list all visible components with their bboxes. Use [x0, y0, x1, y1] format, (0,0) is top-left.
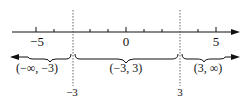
number-line-diagram: −5 0 5 (−∞, −3) (−3, 3) (3, ∞) −3 3 — [0, 0, 246, 106]
tick-label-5: 5 — [213, 34, 220, 49]
interval-label-right: (3, ∞) — [194, 61, 223, 75]
critical-label-minus3: −3 — [66, 86, 78, 98]
axis-arrow-right-icon — [231, 29, 240, 35]
tick-label-minus5: −5 — [30, 34, 44, 49]
axis-ticks — [36, 27, 216, 32]
tick-label-0: 0 — [123, 34, 130, 49]
interval-arrow-right-icon — [231, 54, 240, 60]
interval-label-left: (−∞, −3) — [16, 61, 58, 75]
interval-label-middle: (−3, 3) — [110, 61, 143, 75]
critical-label-3: 3 — [177, 86, 183, 98]
interval-arrow-left-icon — [10, 54, 19, 60]
top-axis: −5 0 5 — [12, 27, 240, 49]
